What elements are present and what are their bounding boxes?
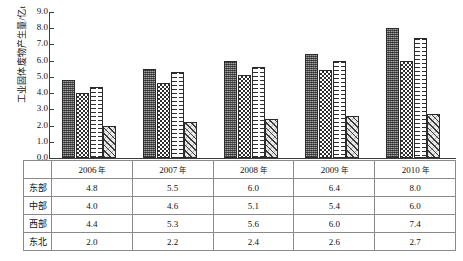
bar [319, 70, 332, 158]
table-cell: 5.3 [132, 215, 213, 233]
table-row-label: 东北 [24, 233, 52, 251]
column-header-suffix: 年 [339, 166, 348, 175]
table-column-header: 2010 年 [375, 161, 456, 179]
table-cell: 2.0 [52, 233, 133, 251]
table-cell: 4.8 [52, 179, 133, 197]
table-header: 2006 年2007 年2008 年2009 年2010 年 [24, 161, 456, 179]
table-column-header: 2009 年 [294, 161, 375, 179]
bar [157, 83, 170, 158]
chart-figure: 工业固体废物产生量/亿t 0.01.02.03.04.05.06.07.08.0… [0, 0, 463, 261]
table-column-header: 2008 年 [213, 161, 294, 179]
column-header-suffix: 年 [177, 166, 186, 175]
y-tick-mark [49, 142, 54, 143]
table-cell: 6.0 [213, 179, 294, 197]
bar [90, 87, 103, 158]
y-tick-mark [49, 77, 54, 78]
table-cell: 5.6 [213, 215, 294, 233]
data-table: 2006 年2007 年2008 年2009 年2010 年 东部4.85.56… [23, 160, 456, 251]
bar [386, 28, 399, 158]
bar-group [305, 8, 359, 158]
bar [427, 114, 440, 158]
column-header-year: 2010 [402, 165, 420, 175]
y-tick-label: 2.0 [37, 121, 48, 130]
bar [400, 61, 413, 158]
table-row: 中部4.04.65.15.46.0 [24, 197, 456, 215]
bar-group [386, 8, 440, 158]
table-cell: 5.5 [132, 179, 213, 197]
bar [103, 126, 116, 158]
bar [184, 122, 197, 158]
column-header-suffix: 年 [420, 166, 429, 175]
table-cell: 7.4 [375, 215, 456, 233]
bar [76, 93, 89, 158]
table-cell: 8.0 [375, 179, 456, 197]
y-tick-mark [49, 126, 54, 127]
y-tick-label: 6.0 [37, 56, 48, 65]
bar [224, 61, 237, 158]
bar-group [224, 8, 278, 158]
table-cell: 6.0 [375, 197, 456, 215]
bar [265, 119, 278, 158]
bar-group [62, 8, 116, 158]
y-tick-label: 1.0 [37, 137, 48, 146]
table-cell: 5.1 [213, 197, 294, 215]
y-tick-mark [49, 12, 54, 13]
bar [238, 75, 251, 158]
bar [414, 38, 427, 158]
bar-chart: 工业固体废物产生量/亿t 0.01.02.03.04.05.06.07.08.0… [0, 0, 463, 160]
column-header-year: 2008 [240, 165, 258, 175]
table-row: 东部4.85.56.06.48.0 [24, 179, 456, 197]
table-cell: 4.4 [52, 215, 133, 233]
table-row: 西部4.45.35.66.07.4 [24, 215, 456, 233]
table-cell: 4.6 [132, 197, 213, 215]
y-tick-mark [49, 109, 54, 110]
table-cell: 2.7 [375, 233, 456, 251]
column-header-suffix: 年 [258, 166, 267, 175]
table-cell: 2.4 [213, 233, 294, 251]
table-cell: 6.4 [294, 179, 375, 197]
table-row: 东北2.02.22.42.62.7 [24, 233, 456, 251]
y-tick-mark [49, 28, 54, 29]
bar [252, 67, 265, 158]
y-tick-label: 8.0 [37, 23, 48, 32]
bar [333, 61, 346, 158]
bar [143, 69, 156, 158]
y-tick-mark [49, 44, 54, 45]
column-header-year: 2007 [159, 165, 177, 175]
column-header-year: 2009 [321, 165, 339, 175]
table-cell: 5.4 [294, 197, 375, 215]
y-axis-tick-labels: 0.01.02.03.04.05.06.07.08.09.0 [22, 0, 48, 160]
table-cell: 6.0 [294, 215, 375, 233]
table-cell: 2.2 [132, 233, 213, 251]
bar [305, 54, 318, 158]
bar [62, 80, 75, 158]
bar [171, 72, 184, 158]
y-tick-mark [49, 158, 54, 159]
table-body: 东部4.85.56.06.48.0中部4.04.65.15.46.0西部4.45… [24, 179, 456, 251]
y-tick-label: 7.0 [37, 39, 48, 48]
table-cell: 2.6 [294, 233, 375, 251]
table-corner-cell [24, 161, 52, 179]
y-tick-mark [49, 93, 54, 94]
y-tick-label: 5.0 [37, 72, 48, 81]
table-column-header: 2006 年 [52, 161, 133, 179]
bar-group [143, 8, 197, 158]
table-cell: 4.0 [52, 197, 133, 215]
column-header-year: 2006 [78, 165, 96, 175]
table-header-row: 2006 年2007 年2008 年2009 年2010 年 [24, 161, 456, 179]
table-row-label: 西部 [24, 215, 52, 233]
y-tick-label: 4.0 [37, 88, 48, 97]
bar [346, 116, 359, 158]
table-column-header: 2007 年 [132, 161, 213, 179]
table-row-label: 东部 [24, 179, 52, 197]
y-tick-mark [49, 61, 54, 62]
plot-area [49, 0, 456, 159]
column-header-suffix: 年 [96, 166, 105, 175]
y-tick-label: 3.0 [37, 104, 48, 113]
table-row-label: 中部 [24, 197, 52, 215]
y-tick-label: 9.0 [37, 7, 48, 16]
